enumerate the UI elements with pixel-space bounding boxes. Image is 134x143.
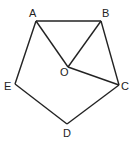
segment-BO	[68, 21, 101, 67]
label-O: O	[60, 66, 69, 78]
pentagon-diagram: A B C D E O	[0, 0, 134, 143]
label-A: A	[29, 7, 37, 19]
label-B: B	[102, 7, 109, 19]
vertex-labels: A B C D E O	[4, 7, 129, 139]
segment-CO	[68, 67, 119, 85]
segment-AO	[36, 21, 68, 67]
segment-CD	[67, 85, 119, 124]
segment-BC	[101, 21, 119, 85]
segment-EA	[15, 21, 36, 84]
label-C: C	[121, 80, 129, 92]
label-E: E	[4, 80, 11, 92]
label-D: D	[63, 127, 71, 139]
segment-DE	[15, 84, 67, 124]
